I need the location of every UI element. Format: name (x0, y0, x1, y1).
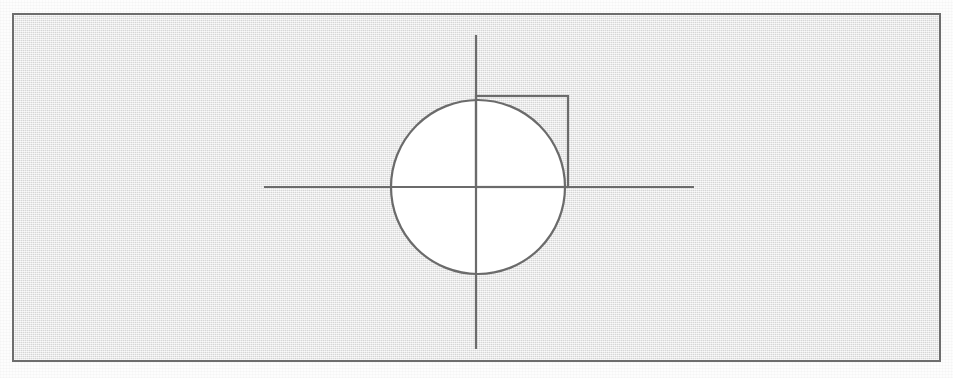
screenshot-root: A circle centred on the origin of a pair… (0, 0, 953, 378)
geometry-canvas (14, 15, 943, 364)
figure-frame (12, 13, 941, 362)
